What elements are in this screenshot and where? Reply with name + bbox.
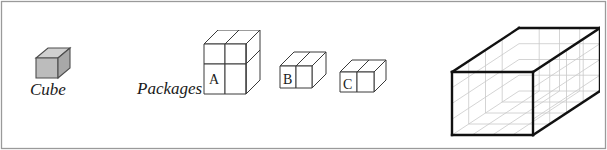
package-b-label: B bbox=[283, 72, 292, 87]
figure-canvas: Cube Packages A bbox=[0, 0, 607, 150]
cube-label: Cube bbox=[30, 80, 66, 100]
package-c-glyph: C bbox=[338, 58, 400, 104]
package-c-front-right bbox=[357, 72, 374, 92]
package-a-label: A bbox=[209, 72, 220, 87]
package-a-front-tr bbox=[225, 44, 246, 64]
container-box-glyph bbox=[440, 8, 600, 148]
package-a-front-tl bbox=[204, 44, 225, 64]
unit-cube-front-face bbox=[36, 58, 58, 78]
package-c-label: C bbox=[343, 77, 352, 92]
package-b-front-second bbox=[296, 66, 312, 88]
package-a-glyph: A bbox=[202, 30, 270, 100]
package-a-front-br bbox=[225, 64, 246, 94]
packages-label: Packages bbox=[137, 79, 202, 99]
package-b-glyph: B bbox=[278, 50, 333, 102]
container-grid bbox=[452, 28, 600, 135]
